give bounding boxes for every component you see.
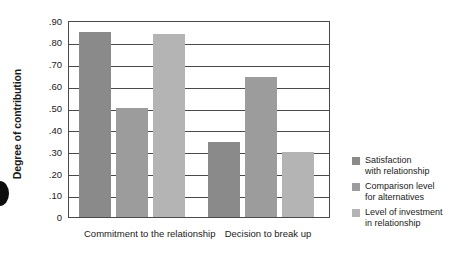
y-tick-label: .40 [28,126,62,136]
plot-area [68,21,330,218]
bar [79,32,111,217]
legend-item-label: Comparison level for alternatives [365,181,435,202]
y-tick-label: .20 [28,170,62,180]
y-tick-label: .10 [28,191,62,201]
bar [282,152,314,217]
bar-chart: Degree of contribution .90 .80 .70 .60 .… [0,0,466,274]
legend-item: Level of investment in relationship [352,207,464,228]
bar [208,142,240,217]
x-axis-category-label: Decision to break up [213,228,323,240]
y-tick-label: .50 [28,104,62,114]
bar [245,77,277,217]
legend-swatch-icon [352,183,360,191]
legend-item: Satisfaction with relationship [352,155,464,176]
y-tick-label: .80 [28,38,62,48]
y-tick-label: 0 [28,213,62,223]
y-tick-label: .70 [28,60,62,70]
x-axis-category-label: Commitment to the relationship [84,228,194,240]
bar [153,34,185,217]
legend-swatch-icon [352,209,360,217]
bar [116,108,148,217]
legend-item: Comparison level for alternatives [352,181,464,202]
legend-item-label: Satisfaction with relationship [365,155,430,176]
y-tick-label: .60 [28,82,62,92]
chart-legend: Satisfaction with relationship Compariso… [352,155,464,233]
y-tick-label: .90 [28,17,62,27]
y-tick-label: .30 [28,148,62,158]
legend-item-label: Level of investment in relationship [365,207,443,228]
legend-swatch-icon [352,157,360,165]
